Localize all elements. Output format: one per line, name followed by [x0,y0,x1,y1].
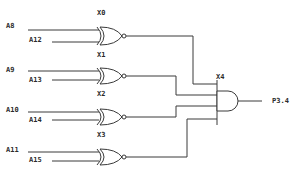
label-a8: A8 [6,22,14,30]
wire-x0-to-and [150,36,217,84]
xnor-body [100,149,122,165]
xnor-body [100,27,122,45]
label-x4: X4 [216,73,224,81]
xnor-input-arc [97,109,101,125]
label-x3: X3 [97,131,105,139]
xnor-input-arc [97,149,101,165]
label-a9: A9 [6,66,14,74]
wire-x3-to-and [126,119,217,157]
label-x1: X1 [97,51,105,59]
label-a14: A14 [29,116,42,124]
xnor-body [100,68,122,84]
label-output-p3-4: P3.4 [272,97,289,105]
xnor-input-arc [97,68,101,84]
xnor-gate-x1 [28,68,126,84]
label-a11: A11 [6,146,19,154]
and-body [217,91,238,111]
inversion-bubble [122,115,126,119]
circuit-diagram: A8 A12 X0 A9 A13 X1 A10 A14 X2 A11 A15 X… [0,0,297,176]
label-a12: A12 [29,36,42,44]
and-gate-x4 [217,80,262,125]
wire-x1-to-and [126,76,217,95]
label-a13: A13 [29,76,42,84]
xnor-gate-x2 [28,109,126,125]
xnor-gate-x3 [28,149,126,165]
label-a10: A10 [6,106,19,114]
xnor-gate-x0 [28,27,150,45]
label-a15: A15 [29,156,42,164]
label-x2: X2 [97,90,105,98]
wire-x2-to-and [126,106,217,117]
label-x0: X0 [97,9,105,17]
xnor-body [100,109,122,125]
inversion-bubble [122,155,126,159]
inversion-bubble [122,74,126,78]
inversion-bubble [122,34,126,38]
